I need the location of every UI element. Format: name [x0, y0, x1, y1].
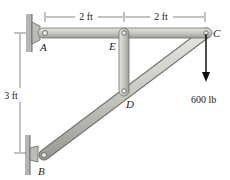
dimension-top [45, 12, 205, 22]
label-c: C [213, 27, 221, 39]
pin-d [122, 89, 126, 93]
pin-a [43, 31, 48, 36]
frame-diagram: 2 ft 2 ft 3 ft A E C D B 600 lb [0, 0, 230, 180]
pin-b [42, 153, 47, 158]
load-label: 600 lb [191, 94, 216, 105]
label-e: E [108, 40, 116, 52]
dim-label-vertical: 3 ft [4, 90, 18, 101]
label-a: A [39, 41, 47, 53]
dim-label-top-left: 2 ft [79, 11, 93, 22]
label-d: D [125, 98, 134, 110]
dim-label-top-right: 2 ft [154, 11, 168, 22]
member-ed [119, 28, 129, 96]
label-b: B [38, 165, 45, 177]
wall-support-b [25, 135, 38, 175]
pin-e [122, 31, 126, 35]
